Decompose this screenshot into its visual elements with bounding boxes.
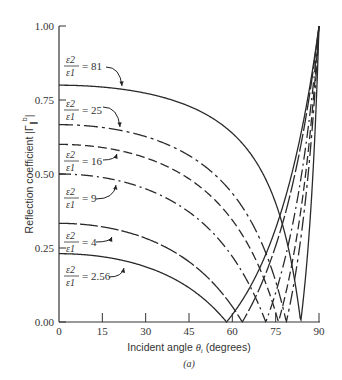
x-tick-label: 90	[314, 325, 326, 337]
x-tick-label: 60	[227, 325, 239, 337]
ratio-denominator: ε1	[66, 199, 75, 210]
ratio-value: = 16	[82, 155, 102, 167]
axes: 0.000.250.500.751.000153045607590	[35, 20, 325, 337]
x-axis-label: Incident angle θi (degrees)	[127, 341, 250, 355]
arrow-line	[106, 67, 122, 86]
ratio-denominator: ε1	[66, 243, 75, 254]
ratio-denominator: ε1	[66, 277, 75, 288]
curve-label: ε2ε1= 4	[64, 230, 112, 254]
arrow-line	[109, 268, 124, 277]
ratio-denominator: ε1	[66, 162, 75, 173]
ratio-numerator: ε2	[66, 186, 75, 197]
curve-label: ε2ε1= 9	[64, 185, 118, 210]
arrowhead-icon	[113, 185, 117, 190]
ratio-value: = 2.56	[82, 270, 111, 282]
ratio-value: = 81	[82, 60, 102, 72]
arrowhead-icon	[114, 154, 118, 159]
ratio-numerator: ε2	[66, 98, 75, 109]
y-tick-label: 0.25	[35, 242, 55, 254]
arrow-line	[96, 185, 116, 199]
y-tick-label: 1.00	[35, 20, 55, 32]
x-tick-label: 75	[270, 325, 282, 337]
curve-label: ε2ε1= 25	[64, 98, 122, 127]
x-tick-label: 30	[140, 325, 152, 337]
x-tick-label: 15	[97, 325, 109, 337]
x-tick-label: 45	[184, 325, 196, 337]
ratio-denominator: ε1	[66, 111, 75, 122]
ratio-denominator: ε1	[66, 67, 75, 78]
x-tick-label: 0	[56, 325, 62, 337]
y-tick-label: 0.75	[35, 94, 55, 106]
reflection-coefficient-chart: 0.000.250.500.751.000153045607590 ε2ε1= …	[0, 0, 342, 380]
y-tick-label: 0.50	[35, 168, 55, 180]
curve-label: ε2ε1= 2.56	[64, 264, 125, 288]
figure-caption: (a)	[183, 358, 195, 370]
ratio-value: = 9	[82, 192, 97, 204]
ratio-numerator: ε2	[66, 149, 75, 160]
ratio-numerator: ε2	[66, 264, 75, 275]
ratio-value: = 25	[82, 104, 102, 116]
ratio-value: = 4	[82, 236, 97, 248]
curve-label: ε2ε1= 81	[64, 54, 124, 86]
ratio-numerator: ε2	[66, 230, 75, 241]
y-tick-label: 0.00	[35, 316, 55, 328]
curve-label: ε2ε1= 16	[64, 149, 118, 173]
ratio-numerator: ε2	[66, 54, 75, 65]
arrow-line	[103, 107, 120, 127]
